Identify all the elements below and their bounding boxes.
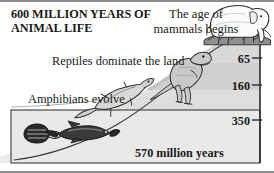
title-line-2: ANIMAL LIFE <box>11 21 92 35</box>
caption-ancient-sea: 570 million years Fist fish, corals, and… <box>135 117 224 173</box>
figure-title: 600 MILLION YEARS OFANIMAL LIFE <box>11 8 161 36</box>
mammals-line-1: The age of <box>169 7 223 21</box>
axis-tick-label-160: 160 <box>216 79 250 94</box>
timeline-figure: 600 MILLION YEARS OFANIMAL LIFE The age … <box>0 0 274 173</box>
label-age-of-mammals: The age ofmammals begins <box>150 7 242 37</box>
axis-tick-label-350: 350 <box>216 114 250 129</box>
label-amphibians-evolve: Amphibians evolve <box>28 93 125 107</box>
title-line-1: 600 MILLION YEARS OF <box>11 7 151 21</box>
caption-headline: 570 million years <box>135 146 224 160</box>
mammals-line-2: mammals begins <box>154 22 239 36</box>
axis-tick-label-65: 65 <box>216 52 250 67</box>
label-reptiles-dominate: Reptiles dominate the land <box>52 55 184 69</box>
